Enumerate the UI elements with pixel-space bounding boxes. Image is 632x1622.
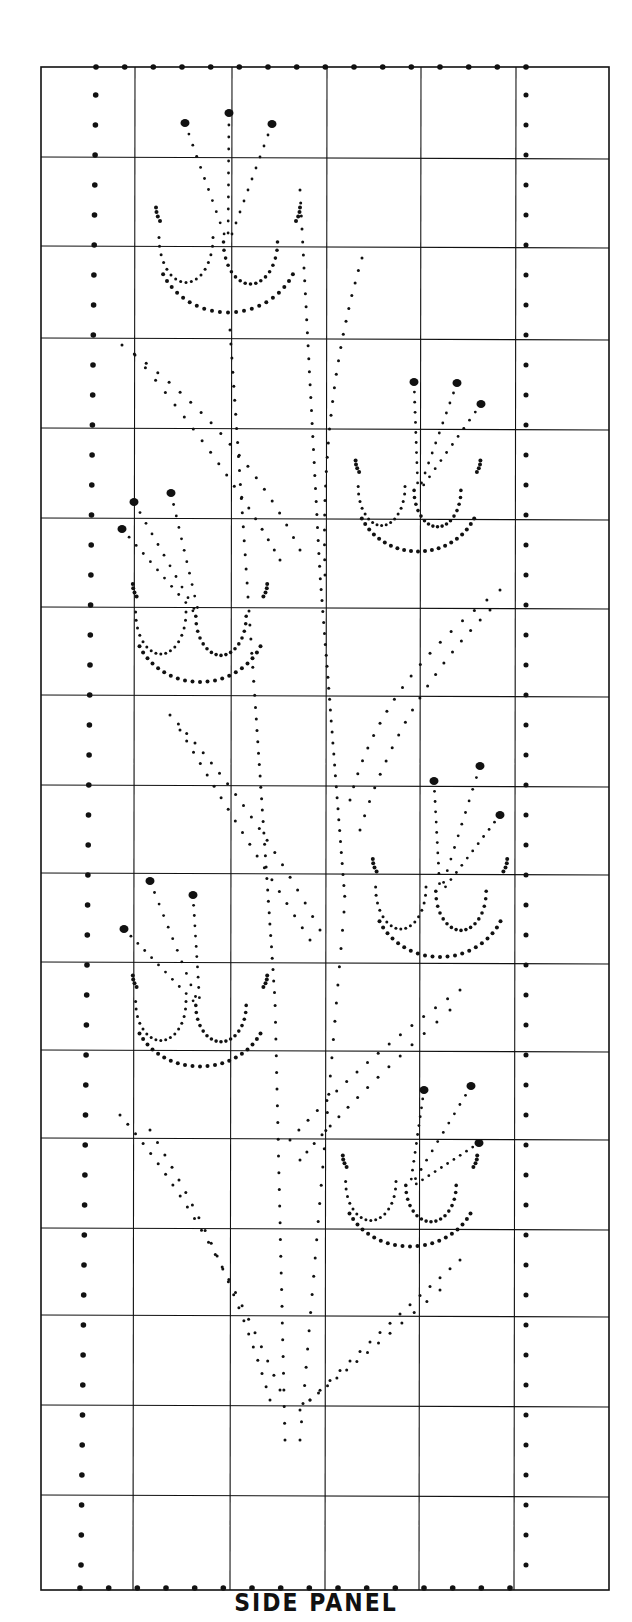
flower-top-center <box>154 109 302 315</box>
caption-title: SIDE PANEL <box>0 1589 632 1617</box>
flower-lower-left <box>120 877 270 1069</box>
flower-upper-right <box>354 378 486 554</box>
stems-and-leaves <box>119 189 502 1442</box>
flower-mid-right <box>371 762 509 959</box>
border-dot-row <box>77 64 529 1591</box>
grid-lines <box>41 67 609 1590</box>
tulip-flowers <box>118 109 510 1249</box>
side-panel-pattern <box>0 0 632 1622</box>
flower-lower-right <box>341 1082 484 1249</box>
